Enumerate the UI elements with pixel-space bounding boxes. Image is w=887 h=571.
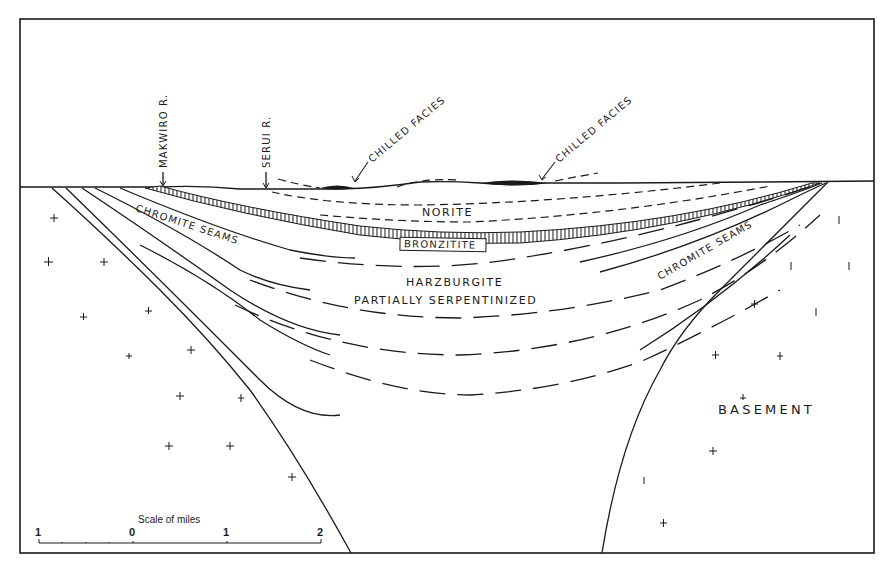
scale-bar-title: Scale of miles (138, 514, 200, 525)
geological-cross-section: MAKWIRO R. SERUI R. CHILLED FACIES CHILL… (0, 0, 887, 571)
chilled-facies-annotation-left: CHILLED FACIES (352, 94, 447, 182)
scale-bar: Scale of miles 1 0 1 2 (35, 514, 323, 543)
scale-tick-label: 2 (317, 526, 323, 538)
scale-tick-label: 0 (129, 526, 135, 538)
intrusion-boundary-left (52, 188, 351, 553)
scale-tick-label: 1 (35, 526, 41, 538)
chromite-seams-label-left: CHROMITE SEAMS (134, 202, 240, 246)
chilled-facies-label-right: CHILLED FACIES (553, 94, 634, 165)
norite-label: NORITE (422, 206, 473, 219)
norite-upper-boundary-3 (555, 173, 598, 181)
serui-river-marker: SERUI R. (261, 116, 272, 188)
chilled-facies-label-left: CHILLED FACIES (366, 94, 447, 165)
scale-tick-label: 1 (223, 526, 229, 538)
makwiro-river-marker: MAKWIRO R. (158, 94, 169, 186)
serui-river-label: SERUI R. (261, 116, 272, 168)
bronzitite-band (145, 183, 820, 243)
chromite-seam-line (82, 188, 340, 335)
chilled-facies-lens-right (480, 181, 548, 186)
norite-upper-boundary (278, 179, 320, 188)
partially-serpentinized-label: PARTIALLY SERPENTINIZED (354, 294, 537, 307)
basement-crosses (44, 214, 849, 527)
bronzitite-label: BRONZITITE (404, 238, 477, 250)
harzburgite-label: HARZBURGITE (406, 276, 503, 289)
chilled-facies-annotation-right: CHILLED FACIES (539, 94, 634, 180)
makwiro-river-label: MAKWIRO R. (158, 94, 169, 168)
chromite-seam-line (140, 245, 330, 355)
basement-label: BASEMENT (718, 402, 815, 417)
